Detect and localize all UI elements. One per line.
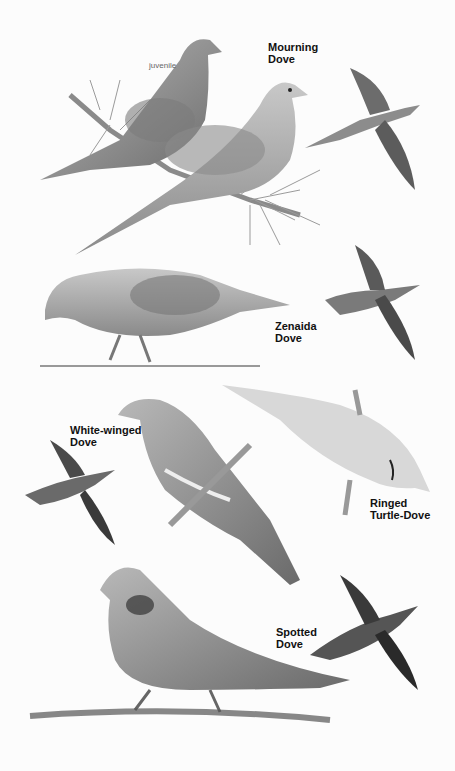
field-guide-plate: Mourning Dove juvenile Zenaida Dove Whit… xyxy=(0,0,455,771)
zenaida-dove xyxy=(40,269,290,367)
dove-illustrations xyxy=(0,0,455,771)
label-ringed-turtle-dove: Ringed Turtle-Dove xyxy=(370,497,430,521)
ringed-turtle-dove xyxy=(222,385,430,515)
label-mourning-dove: Mourning Dove xyxy=(268,41,318,65)
label-white-winged-dove: White-winged Dove xyxy=(70,424,142,448)
spotted-dove-flight xyxy=(310,575,418,690)
label-zenaida-dove: Zenaida Dove xyxy=(275,320,317,344)
label-juvenile: juvenile xyxy=(149,61,176,70)
white-winged-dove-flight xyxy=(25,440,115,545)
label-spotted-dove: Spotted Dove xyxy=(276,626,317,650)
zenaida-dove-flight xyxy=(325,245,420,360)
mourning-dove-flight xyxy=(305,68,420,190)
white-winged-dove xyxy=(118,399,300,585)
